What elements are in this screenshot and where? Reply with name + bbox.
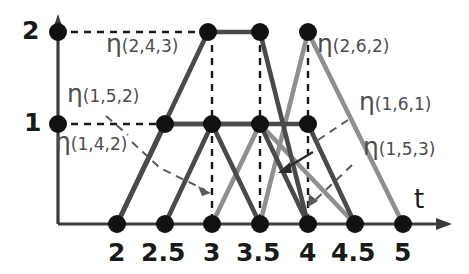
x-axis-label: t (414, 186, 424, 212)
eta-glyph: η (317, 29, 333, 58)
node-axis-2 (49, 23, 67, 41)
y-tick-label-1: 1 (24, 110, 41, 135)
label-eta-1-4-2: η(1,4,2) (55, 129, 127, 154)
eta-glyph: η (363, 132, 379, 161)
node-t3-l2 (199, 23, 217, 41)
eta-glyph: η (106, 29, 122, 58)
label-eta-2-4-3: η(2,4,3) (106, 31, 178, 56)
x-tick-label-5: 5 (394, 240, 411, 265)
x-tick-label-4p5: 4.5 (331, 240, 375, 265)
x-tick-label-3: 3 (203, 240, 220, 265)
eta-subscript: (2,4,3) (122, 36, 179, 56)
node-t3-l0 (203, 215, 221, 233)
node-t3-l1 (203, 115, 221, 133)
eta-subscript: (1,4,2) (71, 134, 128, 154)
node-t4-l0 (299, 215, 317, 233)
label-eta-1-5-2: η(1,5,2) (67, 81, 139, 106)
label-eta-1-6-1: η(1,6,1) (359, 89, 431, 114)
figure-canvas: 2 1 2 2.5 3 3.5 4 4.5 5 t η(2,4,3) η(1,5… (0, 0, 469, 274)
node-t4-l1 (299, 115, 317, 133)
node-t2-l0 (108, 215, 126, 233)
node-t2p5-l1 (156, 115, 174, 133)
curve-eta-2-6-2 (260, 32, 403, 224)
eta-subscript: (2,6,2) (333, 36, 390, 56)
x-tick-label-2p5: 2.5 (141, 240, 185, 265)
eta-subscript: (1,5,2) (83, 86, 140, 106)
node-t3p5-l1 (251, 115, 269, 133)
node-t3p5-l2 (251, 23, 269, 41)
y-tick-label-2: 2 (22, 18, 39, 43)
x-tick-label-4: 4 (299, 240, 316, 265)
label-eta-2-6-2: η(2,6,2) (317, 31, 389, 56)
node-t3p5-l0 (251, 215, 269, 233)
eta-subscript: (1,5,3) (379, 139, 436, 159)
dashed-guides (58, 32, 308, 224)
node-t5-l0 (394, 215, 412, 233)
eta-glyph: η (359, 87, 375, 116)
x-axis-arrow (436, 218, 452, 230)
x-tick-label-3p5: 3.5 (236, 240, 280, 265)
node-t4p5-l0 (346, 215, 364, 233)
x-tick-label-2: 2 (108, 240, 125, 265)
label-eta-1-5-3: η(1,5,3) (363, 134, 435, 159)
eta-glyph: η (67, 79, 83, 108)
arrowhead-eta-1-4-2 (198, 186, 211, 196)
leader-eta-1-6-1 (318, 120, 348, 140)
node-t4-l2 (299, 23, 317, 41)
arrowhead-eta-1-5-3 (308, 194, 318, 207)
eta-subscript: (1,6,1) (375, 94, 432, 114)
eta-glyph: η (55, 127, 71, 156)
node-t2p5-l0 (156, 215, 174, 233)
